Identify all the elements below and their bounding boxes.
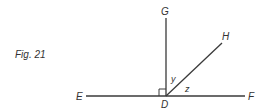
label-E: E [76, 91, 83, 102]
label-H: H [222, 31, 230, 42]
angle-label-z: z [184, 84, 190, 94]
geometry-diagram: Fig. 21 G H E F D y z [0, 0, 265, 111]
line-DH [166, 43, 222, 96]
angle-label-y: y [170, 74, 176, 84]
label-F: F [248, 91, 255, 102]
figure-caption: Fig. 21 [15, 49, 46, 60]
label-D: D [161, 99, 168, 110]
label-G: G [161, 6, 169, 17]
right-angle-marker [159, 89, 166, 96]
